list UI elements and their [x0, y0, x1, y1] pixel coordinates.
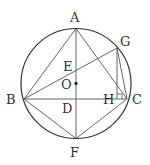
geometry-diagram: ABCFGEODH [0, 0, 150, 165]
label-point-h: H [103, 92, 114, 107]
label-point-d: D [62, 101, 72, 116]
center-point-o [74, 82, 77, 85]
label-point-a: A [69, 10, 80, 25]
right-angle-marker [117, 94, 122, 99]
label-point-o: O [61, 77, 72, 92]
label-point-e: E [63, 59, 73, 74]
label-point-b: B [6, 92, 16, 107]
label-point-c: C [132, 92, 142, 107]
label-point-f: F [70, 145, 79, 160]
label-point-g: G [120, 34, 130, 49]
